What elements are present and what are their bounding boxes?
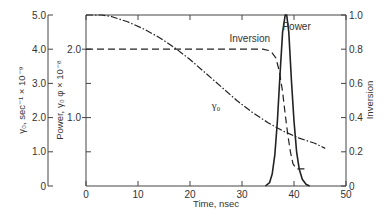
gamma0-tick-label: 1.0 — [32, 146, 46, 157]
power-axis-title: Power, γ₀ φ × 10⁻⁸ — [54, 60, 65, 140]
inversion-tick-label: 0.4 — [349, 112, 363, 123]
series-inversion — [86, 49, 304, 169]
inversion-axis-title: Inversion — [364, 81, 375, 120]
gamma0-tick-label: 3.0 — [32, 78, 46, 89]
x-tick-label: 10 — [132, 189, 144, 200]
chart: γ₀, sec⁻¹ × 10⁻⁹ Power, γ₀ φ × 10⁻⁸ Inve… — [0, 0, 386, 219]
gamma0-tick-label: 2.0 — [32, 112, 46, 123]
inversion-tick-label: 0.8 — [349, 44, 363, 55]
x-tick-label: 20 — [184, 189, 196, 200]
x-tick-label: 0 — [83, 189, 89, 200]
power-tick-label: 2.0 — [67, 44, 81, 55]
annotation-label: Power — [282, 21, 311, 32]
x-tick-label: 30 — [236, 189, 248, 200]
x-axis-title: Time, nsec — [193, 198, 239, 209]
annotations: InversionPowerγ₀ — [211, 21, 312, 111]
series-power — [265, 15, 309, 186]
gamma0-tick-label: 5.0 — [32, 10, 46, 21]
gamma0-tick-label: 4.0 — [32, 44, 46, 55]
axes: 01.02.03.04.05.01.02.00102030405000.20.4… — [32, 10, 363, 201]
annotation-label: γ₀ — [211, 99, 221, 111]
x-tick-label: 40 — [288, 189, 300, 200]
inversion-tick-label: 1.0 — [349, 10, 363, 21]
series — [86, 15, 325, 186]
annotation-label: Inversion — [230, 33, 271, 44]
inversion-tick-label: 0.6 — [349, 78, 363, 89]
inversion-tick-label: 0.2 — [349, 146, 363, 157]
power-tick-label: 1.0 — [67, 112, 81, 123]
gamma0-axis-title: γ₀, sec⁻¹ × 10⁻⁹ — [16, 66, 27, 133]
gamma0-tick-label: 0 — [40, 181, 46, 192]
inversion-tick-label: 0 — [349, 181, 355, 192]
